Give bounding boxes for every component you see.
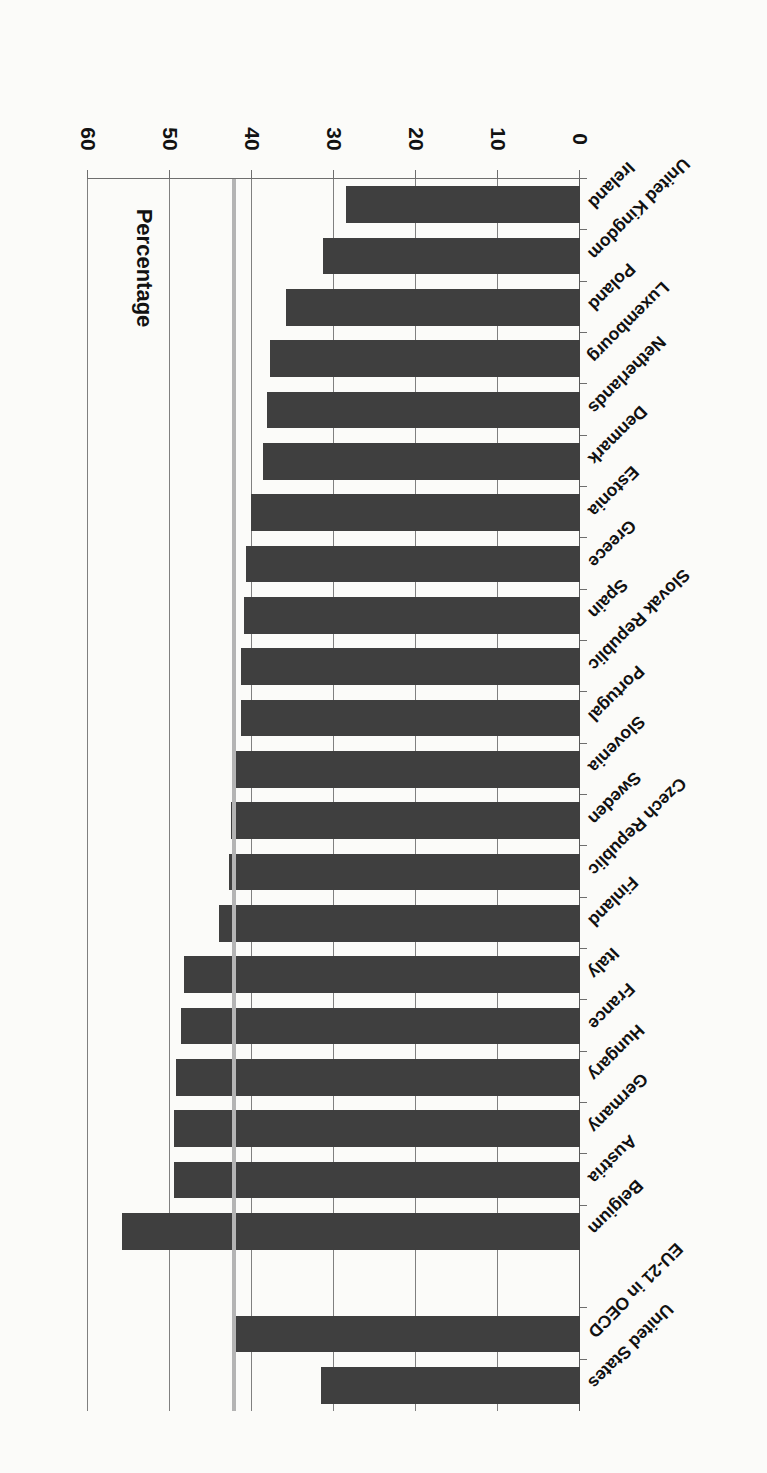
category-tick-slovenia <box>580 743 587 744</box>
gridline-60 <box>87 179 88 1411</box>
reference-line-eu21-average <box>232 179 236 1411</box>
value-tick-label-0: 0 <box>568 116 592 162</box>
category-tick-estonia <box>580 486 587 487</box>
category-tick-slovak-republic <box>580 640 587 641</box>
value-tick-40 <box>251 170 252 179</box>
bar-united-states <box>321 1367 580 1404</box>
category-tick-denmark <box>580 435 587 436</box>
category-tick-ireland <box>580 178 587 179</box>
value-tick-10 <box>497 170 498 179</box>
bar-spain <box>244 597 580 634</box>
category-tick-finland <box>580 897 587 898</box>
bar-united-kingdom <box>323 238 580 275</box>
category-tick-sweden <box>580 794 587 795</box>
bar-denmark <box>263 443 580 480</box>
category-tick-united-states <box>580 1359 587 1360</box>
bar-france <box>181 1008 580 1045</box>
category-tick-netherlands <box>580 383 587 384</box>
category-tick-portugal <box>580 691 587 692</box>
bar-chart-figure: 0102030405060 Percentage IrelandUnited K… <box>0 0 767 1473</box>
bar-hungary <box>176 1059 580 1096</box>
value-tick-50 <box>169 170 170 179</box>
category-tick-spain <box>580 589 587 590</box>
bar-greece <box>246 546 580 583</box>
value-tick-label-30: 30 <box>322 116 346 162</box>
bar-poland <box>286 289 580 326</box>
value-tick-label-40: 40 <box>240 116 264 162</box>
category-tick-italy <box>580 948 587 949</box>
bar-ireland <box>346 186 580 223</box>
category-tick-poland <box>580 281 587 282</box>
category-tick-czech-republic <box>580 845 587 846</box>
bar-eu-21-in-oecd <box>234 1316 580 1353</box>
value-tick-label-10: 10 <box>486 116 510 162</box>
value-tick-20 <box>415 170 416 179</box>
bar-italy <box>184 956 580 993</box>
category-tick-hungary <box>580 1051 587 1052</box>
category-tick-united-kingdom <box>580 229 587 230</box>
value-tick-label-20: 20 <box>404 116 428 162</box>
bar-slovenia <box>232 751 580 788</box>
bar-slovak-republic <box>241 648 580 685</box>
bar-netherlands <box>267 392 580 429</box>
bar-belgium <box>122 1213 580 1250</box>
value-tick-60 <box>87 170 88 179</box>
bar-estonia <box>251 494 580 531</box>
bar-finland <box>219 905 580 942</box>
bar-luxembourg <box>270 340 580 377</box>
category-tick-germany <box>580 1102 587 1103</box>
value-tick-label-60: 60 <box>76 116 100 162</box>
category-tick-austria <box>580 1153 587 1154</box>
category-tick-eu-21-in-oecd <box>580 1307 587 1308</box>
value-tick-30 <box>333 170 334 179</box>
figure-rotation-wrapper: 0102030405060 Percentage IrelandUnited K… <box>0 0 767 1473</box>
bar-portugal <box>241 700 580 737</box>
bar-czech-republic <box>229 854 580 891</box>
plot-area <box>88 179 580 1411</box>
category-tick-belgium <box>580 1205 587 1206</box>
category-tick-france <box>580 999 587 1000</box>
bar-sweden <box>231 802 580 839</box>
category-tick-luxembourg <box>580 332 587 333</box>
category-tick-greece <box>580 537 587 538</box>
value-tick-label-50: 50 <box>158 116 182 162</box>
